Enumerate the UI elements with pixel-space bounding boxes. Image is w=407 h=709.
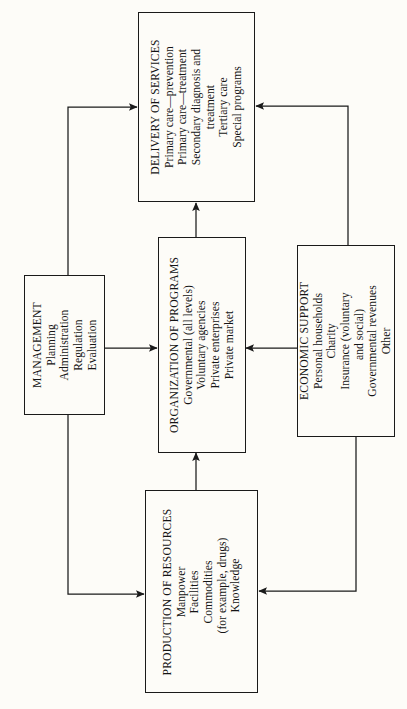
node-organization-title: ORGANIZATION OF PROGRAMS: [168, 239, 182, 451]
node-organization-item-2: Private enterprises: [209, 239, 223, 451]
node-economic-item-3: and social): [353, 247, 367, 435]
edge-management-to-delivery: [68, 107, 137, 275]
node-production-item-2: Commodities: [202, 492, 216, 692]
node-production-item-3: (for example, drugs): [215, 492, 229, 692]
node-management-title: MANAGEMENT: [30, 277, 44, 413]
node-economic-support[interactable]: ECONOMIC SUPPORT Personal households Cha…: [297, 245, 395, 437]
node-delivery-of-services[interactable]: DELIVERY OF SERVICES Primary care—preven…: [138, 12, 255, 202]
node-economic-item-4: Governmental revenues: [367, 247, 381, 435]
node-economic-item-5: Other: [380, 247, 394, 435]
node-delivery-item-0: Primary care—prevention: [162, 14, 176, 200]
node-economic-title: ECONOMIC SUPPORT: [298, 247, 312, 435]
node-organization-item-3: Private market: [223, 239, 237, 451]
node-management-item-0: Planning: [44, 277, 58, 413]
node-organization-of-programs[interactable]: ORGANIZATION OF PROGRAMS Governmental (a…: [158, 237, 246, 453]
diagram-canvas: DELIVERY OF SERVICES Primary care—preven…: [0, 0, 407, 709]
node-production-of-resources[interactable]: PRODUCTION OF RESOURCES Manpower Facilit…: [145, 490, 258, 693]
edge-economic-to-delivery: [256, 106, 348, 245]
node-management-item-3: Evaluation: [85, 277, 99, 413]
node-delivery-item-2: Secondary diagnosis and: [190, 14, 204, 200]
node-delivery-item-3: treatment: [203, 14, 217, 200]
node-management-item-2: Regulation: [71, 277, 85, 413]
node-economic-item-2: Insurance (voluntary: [339, 247, 353, 435]
node-production-item-0: Manpower: [174, 492, 188, 692]
node-delivery-item-5: Special programs: [231, 14, 245, 200]
node-organization-item-1: Voluntary agencies: [195, 239, 209, 451]
node-management[interactable]: MANAGEMENT Planning Administration Regul…: [24, 275, 105, 415]
node-production-item-4: Knowledge: [229, 492, 243, 692]
node-economic-item-0: Personal households: [312, 247, 326, 435]
node-organization-item-0: Governmental (all levels): [181, 239, 195, 451]
node-production-item-1: Facilities: [188, 492, 202, 692]
node-production-title: PRODUCTION OF RESOURCES: [160, 492, 174, 692]
node-delivery-item-4: Tertiary care: [217, 14, 231, 200]
node-delivery-item-1: Primary care—treatment: [176, 14, 190, 200]
edge-economic-to-production: [259, 437, 356, 591]
node-delivery-title: DELIVERY OF SERVICES: [149, 14, 163, 200]
node-economic-item-1: Charity: [325, 247, 339, 435]
edge-management-to-production: [68, 415, 144, 594]
node-management-item-1: Administration: [58, 277, 72, 413]
